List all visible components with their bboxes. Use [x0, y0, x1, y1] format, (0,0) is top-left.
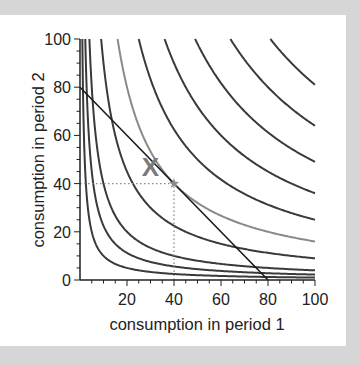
y-tick-label: 100 [44, 31, 71, 48]
x-tick-label: 60 [212, 291, 230, 308]
indifference-curve [230, 39, 315, 126]
indifference-curve [139, 39, 315, 220]
indifference-curve [165, 39, 315, 193]
y-tick-label: 80 [53, 79, 71, 96]
indifference-curves [82, 39, 315, 278]
y-tick-label: 20 [53, 224, 71, 241]
chart: 20406080100020406080100 X consumption in… [0, 0, 360, 366]
y-tick-label: 60 [53, 127, 71, 144]
indifference-curve [82, 39, 315, 278]
y-tick-label: 0 [62, 272, 71, 289]
y-axis-label: consumption in period 2 [29, 72, 47, 247]
indifference-curve [101, 39, 315, 258]
x-marker: X [142, 152, 160, 182]
y-tick-label: 40 [53, 176, 71, 193]
x-axis-label: consumption in period 1 [109, 315, 284, 333]
x-tick-label: 100 [302, 291, 329, 308]
indifference-curve [270, 39, 315, 85]
x-tick-label: 40 [165, 291, 183, 308]
x-tick-label: 20 [118, 291, 136, 308]
x-tick-label: 80 [259, 291, 277, 308]
indifference-curve [85, 39, 315, 275]
indifference-curve [195, 39, 315, 162]
